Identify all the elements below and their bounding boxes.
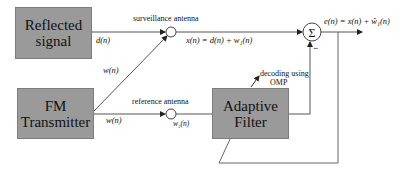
fm-transmitter-line1: FM — [21, 98, 90, 114]
adaptive-filter-block-diagram: Σ Reflected signal FM Transmitter Adapti… — [0, 0, 403, 173]
w2-n-label: w₂(n) — [173, 119, 189, 128]
reflected-signal-line1: Reflected — [25, 17, 82, 33]
fm-transmitter-block: FM Transmitter — [17, 88, 94, 139]
adaptive-filter-line2: Filter — [223, 114, 278, 130]
reflected-signal-line2: signal — [25, 33, 82, 49]
svg-text:Σ: Σ — [309, 26, 316, 40]
reflected-signal-block: Reflected signal — [15, 7, 92, 59]
decoding-arrow — [251, 76, 259, 87]
w-n-reference-label: w(n) — [106, 115, 122, 125]
reference-antenna-label: reference antenna — [132, 97, 189, 106]
adaptive-filter-block: Adaptive Filter — [212, 88, 289, 139]
decoding-label-line2: OMP — [270, 78, 287, 87]
decoding-label-line1: decoding using — [260, 69, 309, 78]
reference-antenna-node — [166, 109, 176, 119]
d-n-label: d(n) — [96, 35, 110, 45]
w-n-diagonal-label: w(n) — [103, 65, 119, 75]
x-n-label: x(n) = d(n) + w₁(n) — [186, 35, 252, 45]
filter-output-line — [287, 42, 310, 114]
adaptive-filter-line1: Adaptive — [223, 98, 278, 114]
fm-transmitter-line2: Transmitter — [21, 114, 90, 130]
minus-sign: − — [313, 43, 318, 53]
surveillance-antenna-node — [166, 27, 176, 37]
surveillance-antenna-label: surveillance antenna — [133, 14, 199, 23]
e-n-label: e(n) = x(n) + ŵ₁(n) — [324, 16, 390, 26]
